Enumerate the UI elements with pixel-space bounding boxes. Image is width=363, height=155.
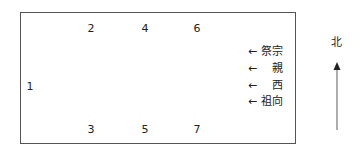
position-2: 2 (88, 23, 95, 35)
position-7: 7 (194, 124, 201, 136)
north-arrow-icon (332, 62, 342, 132)
position-6: 6 (194, 23, 201, 35)
north-label: 北 (331, 36, 342, 50)
annotation-sokou: ← 祖向 (248, 96, 283, 108)
annotation-nishi: ← 西 (248, 80, 283, 92)
position-3: 3 (88, 124, 95, 136)
annotation-shin: ← 親 (248, 63, 283, 75)
position-4: 4 (142, 23, 149, 35)
position-1: 1 (27, 81, 34, 93)
diagram-frame (20, 12, 296, 144)
position-5: 5 (142, 124, 149, 136)
annotation-jisou: ← 祭宗 (248, 46, 283, 58)
